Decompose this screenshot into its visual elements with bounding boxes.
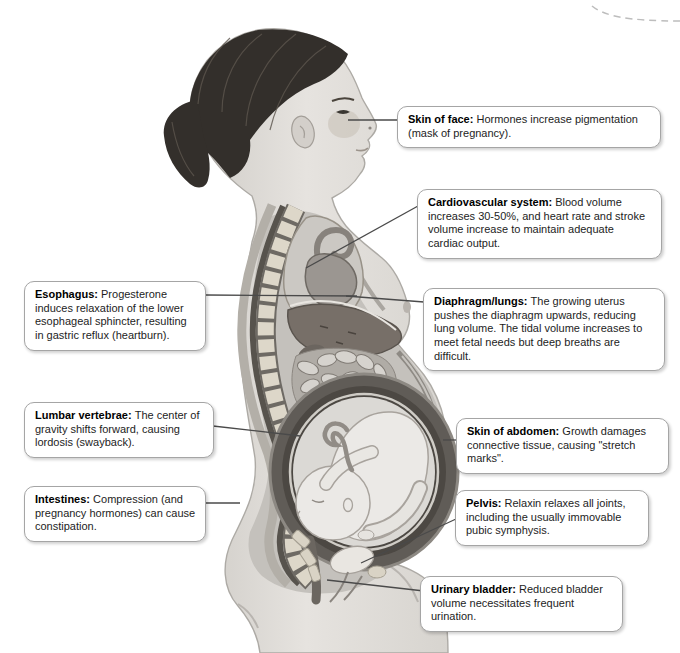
- callout-title: Diaphragm/lungs:: [434, 295, 531, 307]
- callout-skin-of-face: Skin of face: Hormones increase pigmenta…: [397, 106, 661, 148]
- fetus-foot: [358, 530, 374, 540]
- callout-esophagus: Esophagus: Progesterone induces relaxati…: [24, 281, 206, 351]
- callout-title: Esophagus:: [35, 288, 101, 300]
- callout-title: Skin of face:: [408, 113, 476, 125]
- callout-title: Urinary bladder:: [431, 583, 519, 595]
- callout-title: Pelvis:: [466, 497, 505, 509]
- pubic-symphysis: [368, 566, 386, 578]
- callout-pelvis: Pelvis: Relaxin relaxes all joints, incl…: [455, 490, 649, 546]
- nipple: [403, 301, 411, 313]
- callout-intestines: Intestines: Compression (and pregnancy h…: [24, 486, 206, 542]
- dashed-arc-decor: [592, 6, 680, 21]
- callout-urinary-bladder: Urinary bladder: Reduced bladder volume …: [420, 576, 623, 632]
- callout-title: Lumbar vertebrae:: [35, 409, 135, 421]
- callout-title: Skin of abdomen:: [467, 425, 562, 437]
- callout-cardiovascular-system: Cardiovascular system: Blood volume incr…: [417, 189, 662, 259]
- nostril: [368, 126, 371, 129]
- callout-diaphragm-lungs: Diaphragm/lungs: The growing uterus push…: [423, 288, 665, 371]
- pregnancy-mask-patch: [328, 110, 360, 138]
- callout-title: Cardiovascular system:: [428, 196, 555, 208]
- callout-title: Intestines:: [35, 493, 93, 505]
- callout-skin-of-abdomen: Skin of abdomen: Growth damages connecti…: [456, 418, 669, 474]
- callout-lumbar-vertebrae: Lumbar vertebrae: The center of gravity …: [24, 402, 214, 458]
- pregnancy-changes-diagram: Skin of face: Hormones increase pigmenta…: [0, 0, 680, 653]
